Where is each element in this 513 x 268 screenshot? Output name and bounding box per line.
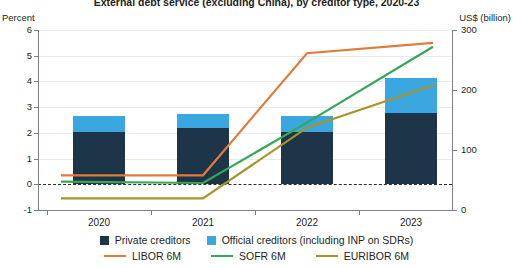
chart-figure: External debt service (excluding China),… bbox=[0, 0, 513, 268]
legend-label-libor: LIBOR 6M bbox=[132, 250, 181, 262]
left-axis-unit-label: Percent bbox=[2, 12, 35, 23]
left-axis-label-minus1: -1 bbox=[4, 205, 32, 215]
right-tick-100 bbox=[453, 150, 457, 151]
left-axis-label-5: 5 bbox=[4, 51, 32, 61]
x-axis-label-2021: 2021 bbox=[173, 217, 233, 229]
plot-area bbox=[38, 30, 452, 210]
legend-swatch-private-creditors bbox=[100, 236, 109, 245]
right-axis-line bbox=[452, 30, 453, 211]
chart-title: External debt service (excluding China),… bbox=[0, 0, 513, 8]
legend-item-sofr[interactable]: SOFR 6M bbox=[211, 250, 286, 262]
right-axis-unit-label: US$ (billion) bbox=[459, 12, 511, 23]
legend-row-lines: LIBOR 6M SOFR 6M EURIBOR 6M bbox=[0, 248, 513, 264]
legend-item-private-creditors[interactable]: Private creditors bbox=[100, 234, 191, 246]
legend-label-euribor: EURIBOR 6M bbox=[344, 250, 409, 262]
legend-item-euribor[interactable]: EURIBOR 6M bbox=[316, 250, 409, 262]
left-axis-line bbox=[38, 30, 39, 211]
left-tick-0 bbox=[34, 184, 38, 185]
left-tick-5 bbox=[34, 56, 38, 57]
x-axis-label-2022: 2022 bbox=[277, 217, 337, 229]
legend-row-bars: Private creditors Official creditors (in… bbox=[0, 232, 513, 248]
line-series-layer bbox=[38, 30, 452, 210]
right-tick-300 bbox=[453, 30, 457, 31]
left-axis-label-6: 6 bbox=[4, 25, 32, 35]
left-tick-3 bbox=[34, 107, 38, 108]
right-axis-label-300: 300 bbox=[461, 25, 491, 35]
legend-line-sofr bbox=[211, 255, 233, 258]
right-axis-label-0: 0 bbox=[461, 205, 491, 215]
legend-swatch-official-creditors bbox=[207, 236, 216, 245]
legend-label-sofr: SOFR 6M bbox=[239, 250, 286, 262]
legend-line-libor bbox=[104, 255, 126, 258]
right-axis-label-100: 100 bbox=[461, 145, 491, 155]
x-axis-label-2023: 2023 bbox=[381, 217, 441, 229]
chart-legend: Private creditors Official creditors (in… bbox=[0, 232, 513, 264]
left-axis-label-3: 3 bbox=[4, 102, 32, 112]
legend-item-official-creditors[interactable]: Official creditors (including INP on SDR… bbox=[207, 234, 414, 246]
line-libor bbox=[61, 43, 433, 175]
x-tick-2021-2022 bbox=[255, 210, 256, 215]
left-tick-minus1 bbox=[34, 210, 38, 211]
right-axis-label-200: 200 bbox=[461, 85, 491, 95]
x-tick-2022-2023 bbox=[359, 210, 360, 215]
right-tick-200 bbox=[453, 90, 457, 91]
x-tick-2020-2021 bbox=[151, 210, 152, 215]
legend-item-libor[interactable]: LIBOR 6M bbox=[104, 250, 181, 262]
legend-label-official-creditors: Official creditors (including INP on SDR… bbox=[222, 234, 414, 246]
left-tick-1 bbox=[34, 159, 38, 160]
left-tick-4 bbox=[34, 81, 38, 82]
x-tick-left-edge bbox=[47, 210, 48, 215]
left-tick-2 bbox=[34, 133, 38, 134]
left-axis-label-4: 4 bbox=[4, 76, 32, 86]
line-sofr bbox=[61, 47, 433, 183]
left-axis-label-1: 1 bbox=[4, 154, 32, 164]
legend-line-euribor bbox=[316, 255, 338, 258]
left-tick-6 bbox=[34, 30, 38, 31]
left-axis-label-0: 0 bbox=[4, 179, 32, 189]
right-tick-0 bbox=[453, 210, 457, 211]
left-axis-label-2: 2 bbox=[4, 128, 32, 138]
legend-label-private-creditors: Private creditors bbox=[115, 234, 191, 246]
x-axis-label-2020: 2020 bbox=[69, 217, 129, 229]
bottom-axis-line bbox=[38, 210, 453, 211]
